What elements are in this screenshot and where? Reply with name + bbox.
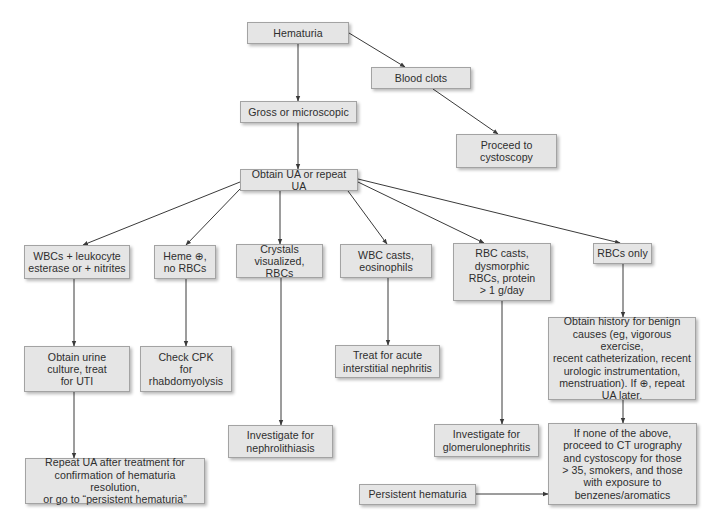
node-rbc-casts: RBC casts, dysmorphic RBCs, protein > 1 … (453, 243, 551, 301)
node-check-cpk: Check CPK for rhabdomyolysis (140, 346, 232, 392)
node-label: Check CPK for rhabdomyolysis (149, 351, 223, 388)
node-label: WBCs + leukocyte esterase or + nitrites (28, 250, 125, 275)
node-wbcs-leukocyte-esterase: WBCs + leukocyte esterase or + nitrites (24, 245, 130, 279)
node-label: Investigate for nephrolithiasis (246, 429, 314, 454)
node-label: Obtain UA or repeat UA (244, 168, 354, 193)
node-crystals-visualized: Crystals visualized, RBCs (236, 244, 323, 278)
node-label: Proceed to cystoscopy (480, 139, 533, 164)
node-blood-clots: Blood clots (371, 67, 471, 89)
node-obtain-history: Obtain history for benign causes (eg, vi… (548, 317, 696, 400)
node-proceed-to-cystoscopy: Proceed to cystoscopy (456, 134, 557, 168)
node-label: Hematuria (273, 27, 322, 39)
node-label: WBC casts, eosinophils (358, 249, 414, 274)
node-label: Gross or microscopic (248, 106, 348, 118)
node-investigate-glomerulonephritis: Investigate for glomerulonephritis (434, 424, 539, 457)
node-label: Persistent hematuria (368, 488, 466, 500)
node-wbc-casts: WBC casts, eosinophils (340, 244, 432, 278)
node-investigate-nephrolithiasis: Investigate for nephrolithiasis (228, 425, 333, 458)
node-label: Obtain urine culture, treat for UTI (47, 351, 107, 388)
node-label: RBCs only (597, 247, 648, 259)
node-hematuria: Hematuria (247, 22, 349, 44)
node-label: If none of the above, proceed to CT urog… (562, 427, 682, 501)
node-obtain-ua: Obtain UA or repeat UA (240, 169, 358, 191)
node-persistent-hematuria: Persistent hematuria (359, 484, 476, 505)
node-repeat-ua-after-treatment: Repeat UA after treatment for confirmati… (25, 458, 205, 504)
node-label: Obtain history for benign causes (eg, vi… (552, 315, 692, 401)
node-heme-positive-no-rbcs: Heme ⊕, no RBCs (154, 245, 216, 279)
node-obtain-urine-culture: Obtain urine culture, treat for UTI (24, 346, 130, 392)
hematuria-flowchart: Hematuria Blood clots Gross or microscop… (0, 0, 719, 531)
node-if-none-of-the-above: If none of the above, proceed to CT urog… (548, 423, 697, 505)
arrow-obtain_ua-to-rbcs_only (358, 179, 620, 243)
node-gross-or-microscopic: Gross or microscopic (240, 101, 357, 123)
node-label: Treat for acute interstitial nephritis (343, 349, 432, 374)
arrow-obtain_ua-to-wbc_le (83, 182, 240, 245)
arrow-blood_clots-to-proceed_cysto (433, 89, 498, 134)
arrow-obtain_ua-to-wbc_casts (348, 191, 387, 244)
node-label: Heme ⊕, no RBCs (163, 250, 206, 275)
node-rbcs-only: RBCs only (593, 243, 652, 264)
node-label: Repeat UA after treatment for confirmati… (29, 456, 201, 505)
arrow-obtain_ua-to-heme_pos (186, 189, 240, 245)
node-label: Crystals visualized, RBCs (240, 243, 319, 280)
arrow-obtain_ua-to-rbc_casts (358, 182, 484, 243)
arrow-hematuria-to-blood_clots (349, 33, 405, 67)
node-label: RBC casts, dysmorphic RBCs, protein > 1 … (469, 247, 536, 296)
node-label: Blood clots (395, 72, 447, 84)
node-label: Investigate for glomerulonephritis (443, 428, 530, 453)
node-treat-interstitial-nephritis: Treat for acute interstitial nephritis (335, 345, 440, 378)
